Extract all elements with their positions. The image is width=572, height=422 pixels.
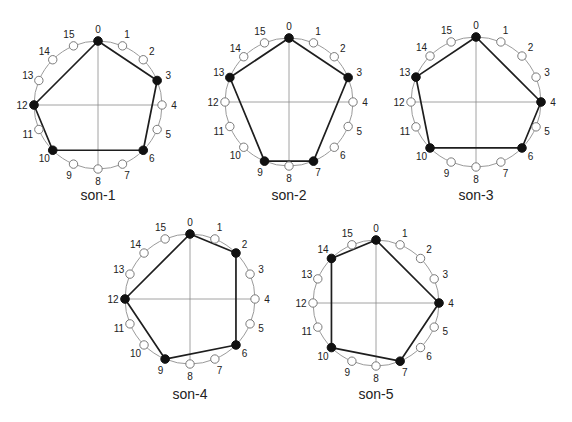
diagram-son-4: 0123456789101112131415son-4 bbox=[107, 217, 270, 403]
filled-node bbox=[309, 157, 318, 166]
open-node bbox=[35, 125, 43, 133]
node-label: 2 bbox=[426, 244, 432, 255]
node-label: 12 bbox=[393, 97, 405, 108]
node-label: 3 bbox=[165, 70, 171, 81]
filled-node bbox=[139, 146, 148, 155]
node-label: 2 bbox=[528, 42, 534, 53]
node-label: 5 bbox=[544, 126, 550, 137]
open-node bbox=[348, 357, 356, 365]
node-label: 2 bbox=[149, 46, 155, 57]
node-label: 6 bbox=[528, 151, 534, 162]
open-node bbox=[396, 241, 404, 249]
open-node bbox=[49, 56, 57, 64]
open-node bbox=[226, 122, 234, 130]
node-label: 15 bbox=[63, 29, 75, 40]
node-label: 4 bbox=[264, 294, 270, 305]
node-label: 5 bbox=[258, 323, 264, 334]
node-label: 4 bbox=[362, 97, 368, 108]
open-node bbox=[186, 360, 194, 368]
node-label: 14 bbox=[39, 46, 51, 57]
diagram-son-1: 0123456789101112131415son-1 bbox=[16, 24, 177, 204]
open-node bbox=[118, 160, 126, 168]
diagram-son-5: 0123456789101112131415son-5 bbox=[295, 223, 454, 403]
node-label: 15 bbox=[441, 25, 453, 36]
node-label: 9 bbox=[257, 167, 263, 178]
open-node bbox=[348, 241, 356, 249]
open-node bbox=[412, 123, 420, 131]
diagram-caption: son-3 bbox=[458, 187, 493, 203]
node-label: 1 bbox=[217, 222, 223, 233]
node-label: 11 bbox=[302, 326, 313, 337]
node-label: 8 bbox=[187, 371, 193, 382]
node-label: 15 bbox=[342, 228, 354, 239]
node-label: 6 bbox=[340, 150, 346, 161]
open-node bbox=[330, 53, 338, 61]
open-node bbox=[344, 122, 352, 130]
node-label: 1 bbox=[402, 228, 408, 239]
filled-node bbox=[518, 144, 527, 153]
node-label: 12 bbox=[16, 100, 28, 111]
node-label: 12 bbox=[107, 294, 119, 305]
node-label: 7 bbox=[315, 167, 321, 178]
node-label: 15 bbox=[254, 26, 266, 37]
open-node bbox=[330, 143, 338, 151]
open-node bbox=[497, 158, 505, 166]
open-node bbox=[118, 42, 126, 50]
node-label: 6 bbox=[242, 348, 248, 359]
filled-node bbox=[232, 249, 241, 258]
open-node bbox=[532, 123, 540, 131]
node-label: 7 bbox=[217, 365, 223, 376]
node-label: 1 bbox=[124, 29, 130, 40]
open-node bbox=[126, 320, 134, 328]
filled-node bbox=[537, 98, 546, 107]
diagram-son-3: 0123456789101112131415son-3 bbox=[393, 20, 556, 204]
open-node bbox=[518, 52, 526, 60]
node-label: 9 bbox=[158, 365, 164, 376]
open-node bbox=[251, 295, 259, 303]
node-label: 4 bbox=[448, 298, 454, 309]
filled-node bbox=[153, 76, 162, 85]
node-label: 6 bbox=[426, 351, 432, 362]
open-node bbox=[416, 254, 424, 262]
filled-node bbox=[232, 341, 241, 350]
node-label: 2 bbox=[242, 239, 248, 250]
node-label: 13 bbox=[213, 67, 225, 78]
node-label: 7 bbox=[124, 170, 130, 181]
node-label: 10 bbox=[130, 348, 142, 359]
filled-node bbox=[435, 299, 444, 308]
node-label: 4 bbox=[171, 100, 177, 111]
open-node bbox=[372, 362, 380, 370]
filled-node bbox=[260, 157, 269, 166]
open-node bbox=[69, 160, 77, 168]
filled-node bbox=[372, 236, 381, 245]
open-node bbox=[94, 165, 102, 173]
open-node bbox=[211, 355, 219, 363]
node-label: 0 bbox=[95, 24, 101, 35]
open-node bbox=[430, 275, 438, 283]
node-label: 14 bbox=[130, 239, 142, 250]
node-label: 10 bbox=[317, 351, 329, 362]
open-node bbox=[35, 76, 43, 84]
open-node bbox=[314, 275, 322, 283]
node-label: 0 bbox=[286, 21, 292, 32]
filled-node bbox=[186, 230, 195, 239]
open-node bbox=[285, 162, 293, 170]
open-node bbox=[211, 235, 219, 243]
filled-node bbox=[94, 37, 103, 46]
open-node bbox=[139, 56, 147, 64]
node-label: 11 bbox=[114, 323, 125, 334]
node-label: 8 bbox=[95, 176, 101, 187]
node-label: 2 bbox=[340, 43, 346, 54]
node-label: 0 bbox=[473, 20, 479, 31]
diagram-caption: son-2 bbox=[271, 187, 306, 203]
node-label: 7 bbox=[503, 168, 509, 179]
node-label: 13 bbox=[113, 264, 125, 275]
node-label: 14 bbox=[317, 244, 329, 255]
node-label: 13 bbox=[301, 269, 313, 280]
open-node bbox=[349, 98, 357, 106]
filled-node bbox=[396, 357, 405, 366]
diagram-caption: son-5 bbox=[358, 386, 393, 402]
node-label: 11 bbox=[214, 126, 225, 137]
open-node bbox=[158, 101, 166, 109]
open-node bbox=[140, 249, 148, 257]
